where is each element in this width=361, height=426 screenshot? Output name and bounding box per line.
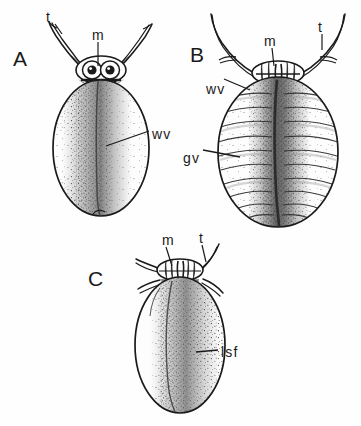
- illustration-artwork: [0, 0, 361, 426]
- panel-letter-c: C: [88, 268, 104, 289]
- label-panel-b-m: m: [264, 34, 277, 48]
- illustration-plate: A B C t m wv m t wv gv m t lsf: [0, 0, 361, 426]
- panel-a-antenna-left: [49, 22, 84, 68]
- label-panel-c-t: t: [199, 231, 204, 245]
- label-panel-a-t: t: [46, 10, 51, 24]
- label-panel-a-wv: wv: [152, 127, 172, 141]
- panel-c-artwork: [135, 244, 225, 413]
- label-panel-c-lsf: lsf: [221, 345, 239, 359]
- panel-a-antenna-right: [117, 24, 152, 68]
- label-panel-c-m: m: [162, 233, 175, 247]
- label-panel-b-t: t: [318, 20, 323, 34]
- label-panel-b-gv: gv: [183, 151, 200, 165]
- label-panel-a-m: m: [92, 28, 105, 42]
- panel-letter-a: A: [13, 48, 28, 69]
- label-panel-b-wv: wv: [206, 82, 226, 96]
- panel-b-antenna-left: [211, 14, 256, 78]
- panel-a-artwork: [49, 22, 152, 216]
- panel-letter-b: B: [190, 44, 205, 65]
- panel-b-leader-wv: [224, 79, 250, 90]
- panel-c-leader-t: [202, 245, 206, 262]
